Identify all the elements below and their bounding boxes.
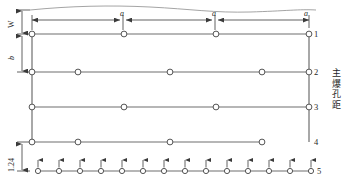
row-number-4: 4	[314, 138, 318, 147]
diagram-canvas	[0, 0, 348, 189]
caption-char-1: 主	[330, 68, 342, 79]
vertical-caption-label: 主 爆 孔 距	[330, 68, 342, 110]
caption-char-2: 爆	[330, 79, 342, 90]
row-5-hole-14	[308, 168, 313, 173]
row-1	[29, 31, 312, 37]
dim-label-a-2: a	[212, 10, 216, 18]
blast-hole-layout-diagram: a a a W b 1.24 1 2 3 4 5 主 爆 孔 距	[0, 0, 348, 189]
row-number-2: 2	[314, 68, 318, 77]
dim-label-a-3: a	[304, 10, 308, 18]
edge-connectors	[32, 34, 309, 142]
row-4-hole-4	[259, 139, 265, 145]
row-5-hole-11	[245, 168, 250, 173]
row-5-hole-6	[140, 168, 145, 173]
row-5-hole-13	[287, 168, 292, 173]
dim-label-a-1: a	[120, 10, 124, 18]
row-4-hole-1	[29, 139, 35, 145]
row-2-hole-3	[167, 69, 173, 75]
row-3-hole-3	[213, 104, 219, 110]
row-4-hole-2	[75, 139, 81, 145]
row-5-hole-10	[224, 168, 229, 173]
terrain-free-face-line	[30, 6, 316, 12]
row-5	[35, 160, 313, 174]
row-number-1: 1	[314, 30, 318, 39]
row-3-hole-2	[121, 104, 127, 110]
row-4-hole-3	[167, 139, 173, 145]
row-2-hole-5	[306, 69, 312, 75]
row-5-hole-7	[161, 168, 166, 173]
row-5-hole-12	[266, 168, 271, 173]
row-5-hole-4	[98, 168, 103, 173]
row-1-hole-3	[213, 31, 219, 37]
row-2-hole-4	[259, 69, 265, 75]
dim-label-1-24: 1.24	[8, 158, 16, 172]
dim-label-w: W	[8, 20, 16, 28]
row-1-hole-1	[29, 31, 35, 37]
row-2	[29, 69, 312, 75]
left-dimension-lines	[17, 10, 30, 72]
row-5-hole-9	[203, 168, 208, 173]
hole-rows-layer	[29, 31, 314, 173]
row-3-hole-1	[29, 104, 35, 110]
row-5-hole-1	[35, 168, 40, 173]
caption-char-3: 孔	[330, 89, 342, 100]
row-1-hole-4	[306, 31, 312, 37]
row-4	[29, 139, 265, 145]
caption-char-4: 距	[330, 100, 342, 111]
row-5-hole-3	[77, 168, 82, 173]
row-number-3: 3	[314, 103, 318, 112]
row-5-hole-2	[56, 168, 61, 173]
row-1-hole-2	[121, 31, 127, 37]
row-5-hole-5	[119, 168, 124, 173]
dim-label-b: b	[8, 56, 16, 60]
row-number-5: 5	[317, 167, 321, 176]
row-3	[29, 104, 312, 110]
row-2-hole-2	[75, 69, 81, 75]
bottom-left-dimension-line	[17, 142, 30, 171]
row-5-hole-8	[182, 168, 187, 173]
row-2-hole-1	[29, 69, 35, 75]
row-3-hole-4	[306, 104, 312, 110]
top-dimension-line	[32, 15, 309, 30]
